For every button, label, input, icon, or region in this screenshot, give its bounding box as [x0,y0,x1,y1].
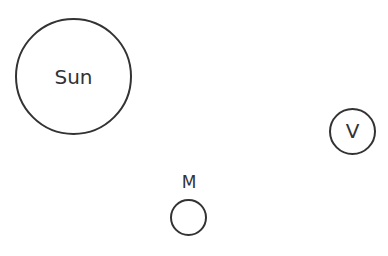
sun-label: Sun [54,65,92,89]
mercury-circle [170,199,207,236]
venus-label: V [346,119,360,143]
venus-circle: V [329,108,376,155]
sun-circle: Sun [15,18,132,135]
mercury-label: M [180,172,198,192]
